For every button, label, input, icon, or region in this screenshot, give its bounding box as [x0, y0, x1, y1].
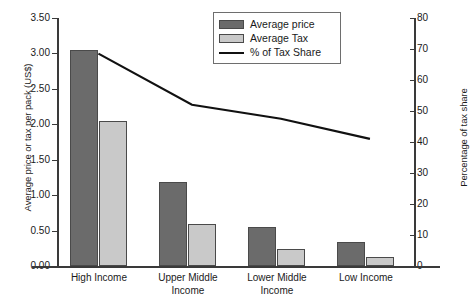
line-swatch-icon: [219, 48, 244, 57]
y-axis-right-tick-mark: [410, 173, 416, 174]
x-axis-category-labels: High IncomeUpper MiddleIncomeLower Middl…: [58, 272, 414, 299]
legend-label-average-tax: Average Tax: [250, 32, 308, 44]
price-swatch-icon: [219, 20, 244, 29]
bar-average-price: [70, 50, 98, 266]
y-axis-left-tick-label: 3.00: [31, 48, 50, 58]
y-axis-right-tick-label: 60: [417, 75, 428, 85]
y-axis-left-tick-label: 1.50: [31, 155, 50, 165]
y-axis-right-tick-mark: [410, 111, 416, 112]
tax-swatch-icon: [219, 34, 244, 43]
y-axis-right-tick-mark: [410, 142, 416, 143]
y-axis-left-ticks: 0.000.501.001.502.002.503.003.50: [8, 0, 50, 299]
category-label-line: Low Income: [311, 272, 421, 285]
y-axis-right-tick-mark: [410, 266, 416, 267]
y-axis-right-tick-label: 10: [417, 230, 428, 240]
x-axis-baseline: [32, 266, 440, 268]
y-axis-left-tick-mark: [52, 89, 58, 90]
chart-legend: Average price Average Tax % of Tax Share: [213, 12, 341, 64]
y-axis-left-tick-mark: [52, 231, 58, 232]
bar-average-tax: [277, 249, 305, 266]
y-axis-right-tick-mark: [410, 204, 416, 205]
category-label-line: Income: [222, 285, 332, 298]
y-axis-right-ticks: 01020304050607080: [417, 0, 457, 299]
y-axis-left-tick-mark: [52, 18, 58, 19]
y-axis-left-tick-label: 1.00: [31, 190, 50, 200]
bar-average-price: [248, 227, 276, 266]
y-axis-left-tick-mark: [52, 266, 58, 267]
y-axis-left-tick-mark: [52, 124, 58, 125]
tax-share-line: [98, 54, 370, 139]
legend-label-tax-share: % of Tax Share: [250, 46, 321, 58]
bar-average-price: [159, 182, 187, 266]
y-axis-left-tick-label: 0.50: [31, 226, 50, 236]
y-axis-left-tick-label: 2.50: [31, 84, 50, 94]
y-axis-left-tick-mark: [52, 53, 58, 54]
y-axis-right-tick-mark: [410, 80, 416, 81]
y-axis-left-tick-mark: [52, 160, 58, 161]
y-axis-right-tick-label: 30: [417, 168, 428, 178]
y-axis-right-tick-mark: [410, 49, 416, 50]
bar-average-tax: [188, 224, 216, 267]
y-axis-left-tick-mark: [52, 195, 58, 196]
legend-item-average-tax: Average Tax: [219, 31, 335, 45]
y-axis-left-tick-label: 2.00: [31, 119, 50, 129]
y-axis-right-tick-label: 80: [417, 13, 428, 23]
bar-average-price: [337, 242, 365, 266]
bar-average-tax: [366, 257, 394, 266]
bar-average-tax: [99, 121, 127, 266]
y-axis-right-tick-label: 50: [417, 106, 428, 116]
legend-item-tax-share: % of Tax Share: [219, 45, 335, 59]
chart-container: Average price or tax per pack (US$) Perc…: [0, 0, 473, 299]
y-axis-right-tick-mark: [410, 235, 416, 236]
y-axis-right-tick-mark: [410, 18, 416, 19]
y-axis-left-tick-label: 3.50: [31, 13, 50, 23]
legend-label-average-price: Average price: [250, 18, 315, 30]
y-axis-right-tick-label: 40: [417, 137, 428, 147]
y-axis-right-tick-label: 70: [417, 44, 428, 54]
y-axis-right-title: Percentage of tax share: [458, 43, 469, 233]
y-axis-right-tick-label: 20: [417, 199, 428, 209]
x-axis-category-label: Low Income: [311, 272, 421, 285]
legend-item-average-price: Average price: [219, 17, 335, 31]
